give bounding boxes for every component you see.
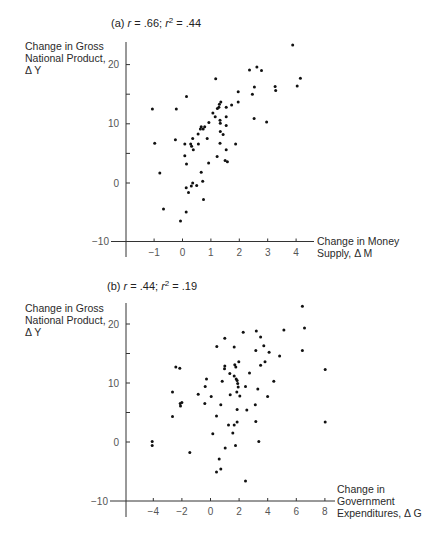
- data-point: [236, 408, 239, 411]
- data-point: [223, 367, 226, 370]
- data-point: [188, 451, 191, 454]
- data-point: [215, 345, 218, 348]
- data-point: [238, 395, 241, 398]
- data-point: [303, 327, 306, 330]
- data-point: [191, 137, 194, 140]
- data-point: [254, 403, 257, 406]
- data-point: [158, 171, 161, 174]
- data-point: [244, 479, 247, 482]
- y-tick-label: 10: [108, 378, 120, 389]
- data-point: [192, 148, 195, 151]
- data-point: [214, 115, 217, 118]
- x-tick-label: −2: [176, 506, 188, 517]
- data-point: [253, 86, 256, 89]
- data-point: [202, 128, 205, 131]
- data-point: [265, 121, 268, 124]
- data-point: [171, 415, 174, 418]
- data-point: [259, 336, 262, 339]
- x-tick-label: 0: [180, 247, 186, 258]
- data-point: [179, 219, 182, 222]
- data-point: [197, 393, 200, 396]
- data-point: [183, 154, 186, 157]
- data-point: [151, 108, 154, 111]
- panel-b-title: (b) r = .44; r2 = .19: [107, 279, 197, 292]
- data-point: [259, 364, 262, 367]
- data-point: [225, 106, 228, 109]
- data-point: [228, 372, 231, 375]
- data-point: [197, 142, 200, 145]
- data-point: [153, 142, 156, 145]
- data-point: [174, 366, 177, 369]
- data-point: [234, 444, 237, 447]
- data-point: [185, 211, 188, 214]
- data-point: [272, 380, 275, 383]
- y-tick-label: 20: [108, 319, 120, 330]
- data-point: [223, 364, 226, 367]
- data-point: [324, 368, 327, 371]
- data-point: [219, 122, 222, 125]
- data-point: [236, 382, 239, 385]
- data-point: [233, 374, 236, 377]
- data-point: [225, 124, 228, 127]
- data-point: [190, 145, 193, 148]
- data-point: [187, 191, 190, 194]
- y-tick-label: 10: [108, 118, 120, 129]
- data-point: [207, 121, 210, 124]
- x-tick-label: −4: [148, 506, 160, 517]
- panel-a-title: (a) r = .66; r2 = .44: [111, 16, 201, 29]
- data-point: [221, 380, 224, 383]
- data-point: [222, 133, 225, 136]
- data-point: [255, 330, 258, 333]
- data-point: [236, 379, 239, 382]
- data-point: [282, 328, 285, 331]
- data-point: [236, 420, 239, 423]
- data-point: [224, 446, 227, 449]
- data-point: [191, 182, 194, 185]
- data-point: [211, 432, 214, 435]
- x-tick-label: 2: [237, 247, 243, 258]
- data-point: [171, 390, 174, 393]
- data-point: [214, 77, 217, 80]
- y-tick-label: 20: [108, 59, 120, 70]
- data-point: [324, 420, 327, 423]
- y-axis-label-b: Change in Gross National Product, Δ Y: [25, 302, 108, 338]
- x-tick-label: 6: [294, 506, 300, 517]
- data-point: [190, 185, 193, 188]
- data-point: [251, 93, 254, 96]
- data-point: [301, 349, 304, 352]
- x-tick-label: 2: [236, 506, 242, 517]
- x-tick-label: −1: [148, 247, 160, 258]
- data-point: [244, 385, 247, 388]
- y-tick-label: 0: [113, 178, 119, 189]
- data-point: [219, 403, 222, 406]
- data-point: [175, 108, 178, 111]
- data-point: [210, 395, 213, 398]
- data-point: [301, 305, 304, 308]
- data-point: [233, 346, 236, 349]
- data-point: [260, 69, 263, 72]
- data-point: [216, 155, 219, 158]
- x-axis-label-b: Change in Government Expenditures, Δ G: [337, 483, 422, 519]
- data-point: [204, 385, 207, 388]
- data-point: [211, 112, 214, 115]
- data-point: [200, 171, 203, 174]
- data-point: [256, 387, 259, 390]
- data-point: [202, 198, 205, 201]
- data-point: [237, 100, 240, 103]
- data-point: [242, 331, 245, 334]
- data-point: [219, 142, 222, 145]
- data-point: [278, 354, 281, 357]
- figure: (a) r = .66; r2 = .44 Change in Gross Na…: [0, 0, 439, 544]
- data-point: [223, 337, 226, 340]
- data-point: [268, 351, 271, 354]
- x-tick-label: 1: [208, 247, 214, 258]
- data-point: [262, 344, 265, 347]
- axes-a: 20100−10−101234: [92, 42, 314, 258]
- points-a: [151, 44, 302, 223]
- data-point: [218, 458, 221, 461]
- data-point: [266, 395, 269, 398]
- data-point: [227, 423, 230, 426]
- y-axis-label-a: Change in Gross National Product, Δ Y: [25, 40, 108, 76]
- data-point: [205, 377, 208, 380]
- data-point: [174, 138, 177, 141]
